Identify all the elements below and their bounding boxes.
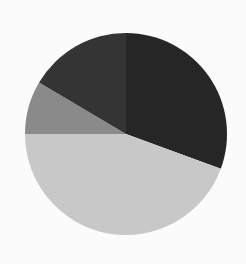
pie-chart [0,0,246,264]
pie-slices [25,33,227,235]
